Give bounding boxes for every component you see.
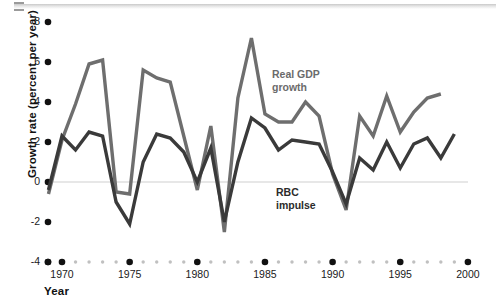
- y-tick-label: -2: [18, 215, 40, 227]
- x-minor-tick-marker: [141, 260, 144, 263]
- x-minor-tick-marker: [182, 260, 185, 263]
- x-axis-title: Year: [44, 285, 69, 297]
- x-tick-marker: [194, 259, 201, 266]
- chart-figure: Growth rate (percent per year) Year 8642…: [0, 0, 496, 306]
- x-minor-tick-marker: [304, 260, 307, 263]
- y-tick-label: 2: [18, 135, 40, 147]
- x-minor-tick-marker: [114, 260, 117, 263]
- x-tick-marker: [329, 259, 336, 266]
- x-minor-tick-marker: [101, 260, 104, 263]
- x-minor-tick-marker: [290, 260, 293, 263]
- series-label-rbc-impulse: RBC impulse: [276, 186, 316, 211]
- y-tick-marker: [45, 59, 52, 66]
- x-tick-marker: [59, 259, 66, 266]
- x-minor-tick-marker: [223, 260, 226, 263]
- y-tick-marker: [45, 219, 52, 226]
- series-label-real-gdp-growth: Real GDP growth: [272, 68, 320, 93]
- x-minor-tick-marker: [155, 260, 158, 263]
- y-tick-marker: [45, 19, 52, 26]
- x-minor-tick-marker: [453, 260, 456, 263]
- x-tick-label: 2000: [448, 268, 488, 280]
- x-tick-marker: [465, 259, 472, 266]
- x-tick-label: 1975: [110, 268, 150, 280]
- x-tick-marker: [397, 259, 404, 266]
- y-tick-label: -4: [18, 255, 40, 267]
- chart-plot-area: [0, 0, 496, 306]
- x-minor-tick-marker: [344, 260, 347, 263]
- x-minor-tick-marker: [277, 260, 280, 263]
- x-minor-tick-marker: [385, 260, 388, 263]
- y-tick-label: 4: [18, 95, 40, 107]
- y-tick-marker: [45, 139, 52, 146]
- x-minor-tick-marker: [250, 260, 253, 263]
- y-tick-marker: [45, 99, 52, 106]
- x-minor-tick-marker: [209, 260, 212, 263]
- x-minor-tick-marker: [317, 260, 320, 263]
- x-tick-label: 1995: [380, 268, 420, 280]
- x-tick-marker: [126, 259, 133, 266]
- x-tick-label: 1980: [177, 268, 217, 280]
- x-tick-label: 1985: [245, 268, 285, 280]
- y-axis-ticks: [45, 19, 52, 266]
- x-axis-minor-ticks: [47, 260, 456, 263]
- y-tick-label: 6: [18, 55, 40, 67]
- x-minor-tick-marker: [87, 260, 90, 263]
- x-minor-tick-marker: [236, 260, 239, 263]
- y-tick-marker: [45, 259, 52, 266]
- x-axis-major-ticks: [59, 259, 472, 266]
- x-minor-tick-marker: [169, 260, 172, 263]
- x-minor-tick-marker: [74, 260, 77, 263]
- x-minor-tick-marker: [426, 260, 429, 263]
- x-tick-label: 1970: [42, 268, 82, 280]
- y-tick-label: 0: [18, 175, 40, 187]
- x-minor-tick-marker: [358, 260, 361, 263]
- y-tick-label: 8: [18, 15, 40, 27]
- x-tick-marker: [262, 259, 269, 266]
- x-minor-tick-marker: [412, 260, 415, 263]
- x-tick-label: 1990: [313, 268, 353, 280]
- x-minor-tick-marker: [439, 260, 442, 263]
- x-minor-tick-marker: [371, 260, 374, 263]
